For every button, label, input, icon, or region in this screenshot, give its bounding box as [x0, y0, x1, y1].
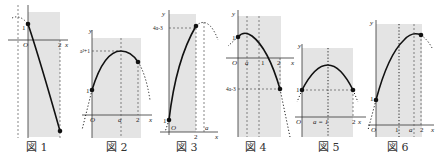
label-x-end: 2 — [277, 59, 281, 67]
label-end-y: 4a-3 — [153, 25, 163, 31]
endpoint-dot — [58, 129, 63, 134]
label-y-intercept: 1 — [22, 24, 26, 32]
label-vertex-x: a — [118, 116, 122, 124]
label-midpoint: 1 — [395, 126, 399, 134]
label-x-axis: x — [357, 118, 362, 126]
endpoint-dot — [136, 60, 141, 65]
label-x-end: 2 — [352, 118, 356, 126]
label-x-end: 2 — [194, 133, 198, 141]
label-x-end: 2 — [420, 126, 424, 134]
label-y-axis: y — [369, 19, 374, 27]
label-origin: O — [90, 116, 95, 124]
curve-extension — [280, 89, 290, 137]
label-y-intercept: 1 — [163, 117, 167, 125]
label-midpoint: 1 — [261, 59, 265, 67]
label-x-end: 2 — [136, 116, 140, 124]
label-y-axis: y — [161, 10, 166, 18]
shaded-interval — [238, 16, 281, 137]
label-x-axis: x — [430, 126, 435, 134]
curve-extension — [421, 35, 432, 48]
endpoint-dot — [278, 87, 283, 92]
label-x-end: 2 — [58, 41, 62, 49]
label-origin: O — [171, 124, 176, 132]
label-y-axis: y — [297, 42, 302, 50]
endpoint-dot — [351, 88, 356, 93]
label-origin: O — [296, 118, 301, 126]
figure-caption: 図 6 — [387, 141, 409, 154]
figure-caption: 図 3 — [176, 141, 198, 154]
label-x-axis: x — [214, 133, 219, 141]
label-y-intercept: 1 — [232, 34, 236, 42]
label-origin: O — [23, 41, 28, 49]
label-x-axis: x — [64, 41, 69, 49]
figure-1: 1 O 2 x 図 1 — [8, 5, 69, 154]
curve-extension — [196, 22, 218, 40]
endpoint-dot — [300, 88, 305, 93]
label-vertex-y: a²+1 — [80, 48, 90, 54]
endpoint-dot — [419, 33, 424, 38]
label-vertex-x: a = 1 — [313, 118, 328, 126]
figure-caption: 図 5 — [318, 141, 340, 154]
curve-extension — [12, 17, 28, 24]
label-x-axis: x — [290, 59, 295, 67]
label-vertex-x: a — [205, 124, 209, 132]
label-y-axis: y — [231, 10, 236, 18]
endpoint-dot — [236, 35, 241, 40]
figure-caption: 図 4 — [245, 141, 267, 154]
endpoint-dot — [26, 22, 31, 27]
label-y-intercept: 1 — [296, 86, 300, 94]
endpoint-dot — [194, 24, 199, 29]
figures-canvas: 1 O 2 x 図 1 y a²+1 1 O a 2 x 図 2 — [0, 0, 442, 162]
endpoint-dot — [167, 118, 172, 123]
endpoint-dot — [90, 88, 95, 93]
figure-6: y 1 O 1 a 2 x 図 6 — [368, 19, 435, 154]
figure-3: y 4a-3 1 O 2 a x 図 3 — [153, 10, 219, 154]
figure-5: y 1 O a = 1 2 x 図 5 — [295, 42, 366, 154]
label-end-y: 4a-3 — [226, 86, 236, 92]
label-y-intercept: 1 — [370, 95, 374, 103]
label-x-axis: x — [148, 116, 153, 124]
figure-caption: 図 2 — [106, 141, 128, 154]
label-vertex-x: a — [245, 59, 249, 67]
curve-extension — [82, 90, 92, 130]
label-origin: O — [371, 126, 376, 134]
label-y-intercept: 1 — [86, 87, 90, 95]
figure-caption: 図 1 — [26, 141, 48, 154]
label-origin: O — [232, 59, 237, 67]
figure-2: y a²+1 1 O a 2 x 図 2 — [80, 27, 153, 154]
figure-4: y 1 O a 1 2 x 4a-3 図 4 — [226, 10, 295, 154]
shaded-interval — [92, 38, 141, 138]
endpoint-dot — [374, 98, 379, 103]
label-vertex-x: a — [409, 126, 413, 134]
